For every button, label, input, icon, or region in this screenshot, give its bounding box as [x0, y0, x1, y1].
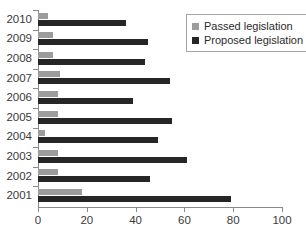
x-axis-label-0: 0: [18, 214, 58, 227]
bar-2007-passed: [38, 71, 60, 77]
x-axis-label-60: 60: [164, 214, 204, 227]
bar-2005-passed: [38, 111, 58, 117]
bar-2001-proposed: [38, 196, 231, 202]
bar-2010-passed: [38, 13, 48, 19]
y-axis-label-2009: 2009: [0, 32, 38, 44]
bar-group-2001: [38, 186, 282, 206]
x-tick-80: [233, 207, 234, 212]
bar-2006-passed: [38, 91, 58, 97]
legend-swatch-proposed-icon: [192, 37, 199, 44]
bar-group-2005: [38, 108, 282, 128]
bar-2004-proposed: [38, 137, 158, 143]
y-axis-label-2008: 2008: [0, 52, 38, 64]
bar-2004-passed: [38, 130, 45, 136]
bar-2001-passed: [38, 189, 82, 195]
x-axis-label-80: 80: [213, 214, 253, 227]
bar-2010-proposed: [38, 20, 126, 26]
y-axis-label-2006: 2006: [0, 91, 38, 103]
bar-2002-passed: [38, 169, 58, 175]
x-tick-100: [282, 207, 283, 212]
y-axis-label-2004: 2004: [0, 130, 38, 142]
x-axis-label-40: 40: [116, 214, 156, 227]
bar-2008-proposed: [38, 59, 145, 65]
legend-label-proposed: Proposed legislation: [204, 33, 303, 47]
legend-item-passed: Passed legislation: [192, 19, 303, 33]
bar-chart: 2010200920082007200620052004200320022001…: [0, 0, 306, 239]
bar-2003-proposed: [38, 157, 187, 163]
bar-2002-proposed: [38, 176, 150, 182]
legend-label-passed: Passed legislation: [204, 19, 293, 33]
bar-group-2003: [38, 147, 282, 167]
bar-group-2002: [38, 167, 282, 187]
x-tick-60: [184, 207, 185, 212]
legend-swatch-passed-icon: [192, 23, 199, 30]
y-axis-label-2001: 2001: [0, 189, 38, 201]
y-axis-label-2002: 2002: [0, 170, 38, 182]
y-axis-label-2010: 2010: [0, 13, 38, 25]
legend-item-proposed: Proposed legislation: [192, 33, 303, 47]
chart-legend: Passed legislation Proposed legislation: [186, 14, 306, 52]
x-tick-40: [136, 207, 137, 212]
y-axis-label-2005: 2005: [0, 111, 38, 123]
bar-group-2006: [38, 88, 282, 108]
bar-group-2008: [38, 49, 282, 69]
bar-2005-proposed: [38, 118, 172, 124]
x-axis-label-100: 100: [262, 214, 302, 227]
x-tick-0: [38, 207, 39, 212]
y-axis-label-2007: 2007: [0, 72, 38, 84]
bar-group-2004: [38, 128, 282, 148]
bar-2008-passed: [38, 52, 53, 58]
x-tick-20: [87, 207, 88, 212]
bar-2009-passed: [38, 32, 53, 38]
bar-2007-proposed: [38, 78, 170, 84]
bar-2009-proposed: [38, 39, 148, 45]
bar-group-2007: [38, 69, 282, 89]
x-axis-label-20: 20: [67, 214, 107, 227]
bar-2006-proposed: [38, 98, 133, 104]
y-axis-label-2003: 2003: [0, 150, 38, 162]
x-axis-line: [38, 207, 283, 208]
bar-2003-passed: [38, 150, 58, 156]
